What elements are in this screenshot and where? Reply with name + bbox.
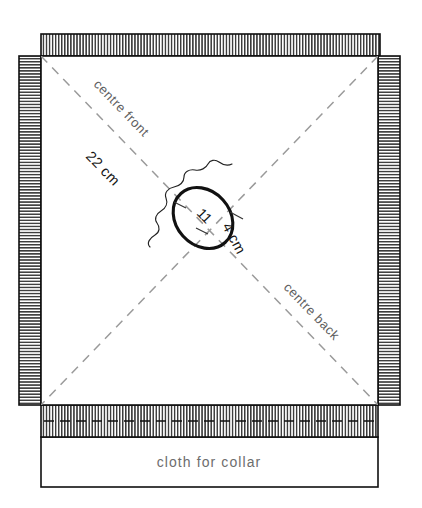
cutting-layout-diagram: cloth for collar — [0, 0, 422, 508]
collar-cloth-panel: cloth for collar — [41, 437, 378, 487]
selvedge-top — [41, 34, 380, 56]
selvedge-left — [19, 56, 41, 405]
diagram-canvas: cloth for collar — [0, 0, 422, 508]
collar-strip-hatched — [41, 405, 378, 437]
selvedge-right — [378, 56, 400, 405]
collar-caption-label: cloth for collar — [157, 454, 262, 470]
